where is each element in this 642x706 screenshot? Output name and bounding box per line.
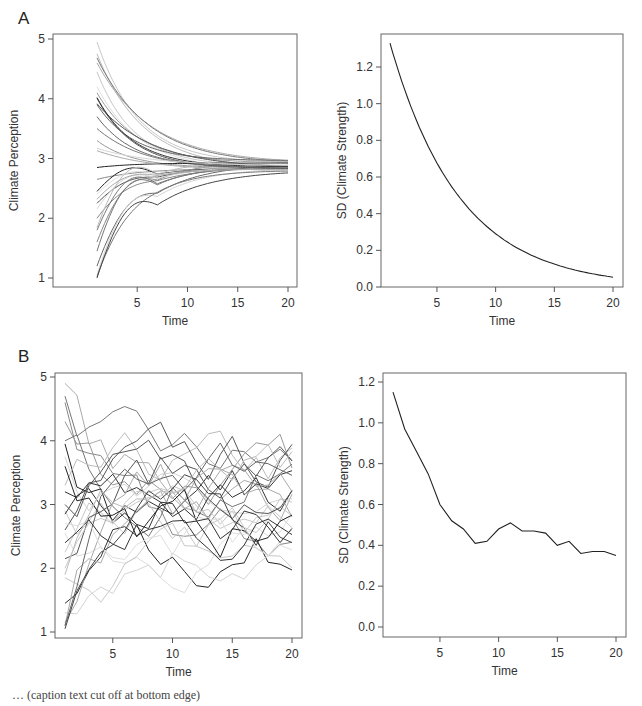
y-tick-label: 0.4 — [358, 538, 375, 552]
chart-B-right: 0.00.20.40.60.81.01.25101520TimeSD (Clim… — [337, 373, 626, 678]
series-group — [65, 383, 292, 628]
y-tick-label: 1.0 — [356, 97, 373, 111]
trajectory-line — [65, 514, 292, 593]
trajectory-line — [97, 171, 288, 277]
panel-label-B: B — [18, 347, 29, 366]
chart-A-left: A123455101520TimeClimate Perception — [7, 9, 297, 328]
panel-label-A: A — [18, 9, 30, 28]
x-axis-label: Time — [491, 664, 518, 678]
x-tick-label: 15 — [226, 647, 240, 661]
x-axis-label: Time — [489, 314, 516, 328]
trajectory-line — [97, 105, 288, 161]
x-tick-label: 10 — [489, 296, 503, 310]
trajectory-line — [97, 169, 288, 275]
plot-frame — [383, 373, 626, 637]
y-tick-label: 0.8 — [356, 133, 373, 147]
trajectory-line — [65, 499, 292, 547]
y-tick-label: 4 — [40, 434, 47, 448]
trajectory-line — [97, 42, 288, 162]
series-group — [97, 42, 288, 278]
x-tick-label: 5 — [109, 647, 116, 661]
y-tick-label: 1.2 — [356, 60, 373, 74]
x-tick-label: 10 — [166, 647, 180, 661]
x-tick-label: 5 — [134, 296, 141, 310]
y-tick-label: 0.0 — [356, 280, 373, 294]
trajectory-line — [97, 165, 288, 266]
series-group — [393, 392, 616, 555]
x-tick-label: 20 — [285, 647, 299, 661]
y-axis-label: Climate Perception — [9, 455, 23, 556]
trajectory-line — [97, 63, 288, 160]
trajectory-line — [65, 486, 292, 568]
y-tick-label: 0.2 — [356, 243, 373, 257]
y-tick-label: 5 — [40, 370, 47, 384]
chart-B-left: B123455101520TimeClimate Perception — [9, 347, 302, 679]
y-axis-label: SD (Climate Strength) — [337, 446, 351, 563]
trajectory-line — [65, 422, 292, 505]
y-axis-label: SD (Climate Strength) — [335, 102, 349, 219]
y-tick-label: 3 — [38, 152, 45, 166]
x-tick-label: 20 — [609, 646, 623, 660]
y-tick-label: 4 — [38, 92, 45, 106]
y-tick-label: 2 — [38, 211, 45, 225]
sd-line — [390, 43, 613, 277]
y-tick-label: 5 — [38, 32, 45, 46]
chart-A-right: 0.00.20.40.60.81.01.25101520TimeSD (Clim… — [335, 34, 623, 328]
x-tick-label: 20 — [281, 296, 295, 310]
y-tick-label: 0.2 — [358, 579, 375, 593]
y-tick-label: 1.2 — [358, 375, 375, 389]
y-tick-label: 1 — [40, 625, 47, 639]
x-tick-label: 15 — [548, 296, 562, 310]
sd-line — [393, 392, 616, 555]
x-tick-label: 5 — [434, 296, 441, 310]
x-tick-label: 15 — [551, 646, 565, 660]
trajectory-line — [97, 54, 288, 167]
y-tick-label: 0.4 — [356, 207, 373, 221]
y-tick-label: 3 — [40, 498, 47, 512]
x-tick-label: 5 — [437, 646, 444, 660]
y-tick-label: 0.6 — [358, 498, 375, 512]
trajectory-line — [65, 475, 292, 629]
y-tick-label: 1.0 — [358, 416, 375, 430]
series-group — [390, 43, 613, 277]
plot-frame — [381, 34, 623, 287]
x-tick-label: 15 — [231, 296, 245, 310]
x-axis-label: Time — [165, 665, 192, 679]
x-tick-label: 10 — [181, 296, 195, 310]
y-tick-label: 0.0 — [358, 620, 375, 634]
y-tick-label: 0.8 — [358, 457, 375, 471]
x-tick-label: 20 — [606, 296, 620, 310]
trajectory-line — [97, 168, 288, 218]
trajectory-line — [65, 444, 292, 587]
y-axis-label: Climate Perception — [7, 110, 21, 211]
x-axis-label: Time — [162, 314, 189, 328]
x-tick-label: 10 — [492, 646, 506, 660]
caption-fragment: … (caption text cut off at bottom edge) — [12, 688, 642, 706]
y-tick-label: 2 — [40, 561, 47, 575]
y-tick-label: 0.6 — [356, 170, 373, 184]
y-tick-label: 1 — [38, 271, 45, 285]
